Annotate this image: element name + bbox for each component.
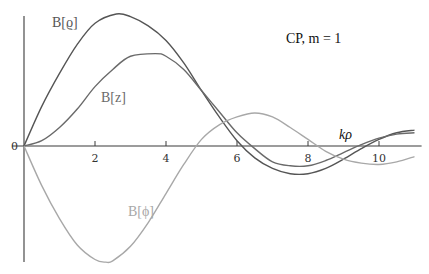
curve-b-rho [24,14,415,175]
annotation-cp-m1: CP, m = 1 [286,31,341,46]
y-tick-label-0: 0 [11,140,18,153]
series-label-b-rho: B[ϱ] [52,15,78,30]
series-label-b-phi: B[ϕ] [128,204,154,219]
x-tick-label-4: 4 [163,152,170,165]
x-axis-label: kρ [339,127,352,142]
chart: 246810 0 B[ϱ] B[z] B[ϕ] CP, m = 1 kρ [0,0,429,274]
curve-b-z [24,54,415,167]
series-label-b-z: B[z] [101,90,126,105]
curve-b-phi [24,113,415,263]
x-tick-label-10: 10 [372,152,386,165]
x-tick-label-8: 8 [305,152,312,165]
x-tick-label-2: 2 [92,152,99,165]
axes [12,16,422,262]
x-tick-label-6: 6 [234,152,241,165]
curves [24,14,415,263]
